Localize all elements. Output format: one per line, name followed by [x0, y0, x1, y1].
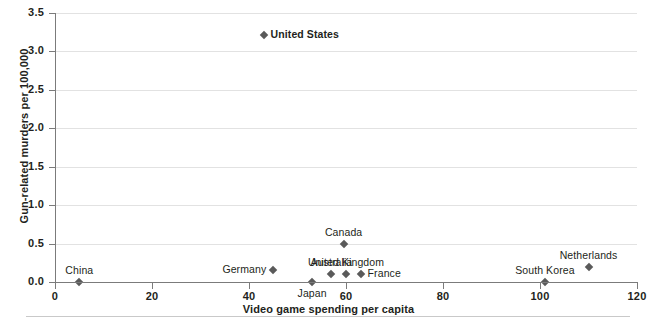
- gridline: [55, 128, 637, 129]
- y-axis-tick: [49, 51, 55, 52]
- y-axis-tick: [49, 90, 55, 91]
- x-axis-tick: [540, 283, 541, 289]
- x-axis-tick-label: 80: [423, 290, 463, 302]
- y-axis-line: [55, 13, 56, 283]
- x-axis-tick-label: 40: [229, 290, 269, 302]
- data-point-label: Germany: [222, 263, 266, 275]
- x-axis-tick: [55, 283, 56, 289]
- x-axis-title: Video game spending per capita: [0, 303, 657, 315]
- gridline: [55, 51, 637, 52]
- scatter-chart: ChinaGermanyUnited StatesJapanAustraliaC…: [0, 0, 657, 324]
- y-axis-title: Gun-related murders per 100,000: [18, 0, 30, 276]
- x-axis-tick-label: 0: [35, 290, 75, 302]
- y-axis-tick: [49, 13, 55, 14]
- x-axis-tick: [637, 283, 638, 289]
- data-point-label: Japan: [298, 287, 327, 299]
- data-point-label: Canada: [325, 226, 362, 238]
- diamond-marker-icon: [269, 265, 277, 273]
- y-axis-tick: [49, 244, 55, 245]
- plot-area: ChinaGermanyUnited StatesJapanAustraliaC…: [55, 13, 637, 282]
- y-axis-tick: [49, 128, 55, 129]
- x-axis-tick-label: 100: [520, 290, 560, 302]
- diamond-marker-icon: [339, 239, 347, 247]
- y-axis-tick-label: 0.0: [5, 275, 44, 287]
- footer-divider: [26, 316, 630, 317]
- x-axis-tick-label: 60: [326, 290, 366, 302]
- y-axis-tick: [49, 167, 55, 168]
- data-point-label: Netherlands: [560, 249, 618, 261]
- diamond-marker-icon: [327, 270, 335, 278]
- gridline: [55, 13, 637, 14]
- data-point-label: China: [65, 264, 93, 276]
- x-axis-tick-label: 120: [617, 290, 657, 302]
- data-point-label: South Korea: [515, 264, 574, 276]
- x-axis-tick: [152, 283, 153, 289]
- diamond-marker-icon: [259, 31, 267, 39]
- x-axis-tick: [443, 283, 444, 289]
- data-point-label: France: [368, 267, 401, 279]
- y-axis-tick: [49, 205, 55, 206]
- x-axis-tick-label: 20: [132, 290, 172, 302]
- gridline: [55, 90, 637, 91]
- diamond-marker-icon: [584, 262, 592, 270]
- gridline: [55, 167, 637, 168]
- x-axis-tick: [249, 283, 250, 289]
- diamond-marker-icon: [356, 270, 364, 278]
- data-point-label: United States: [271, 28, 339, 40]
- gridline: [55, 205, 637, 206]
- x-axis-tick: [346, 283, 347, 289]
- diamond-marker-icon: [342, 270, 350, 278]
